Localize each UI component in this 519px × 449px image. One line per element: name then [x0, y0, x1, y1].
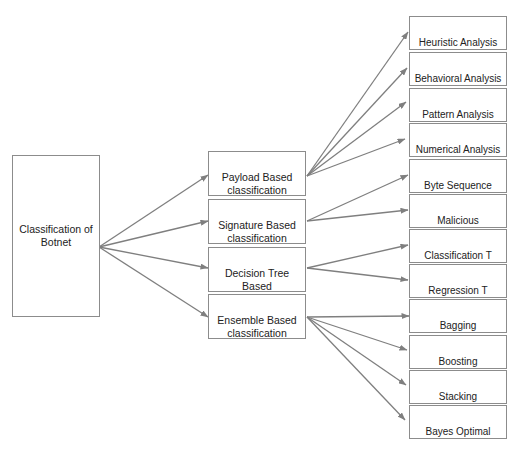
- arrow-root-to-category-2: [99, 247, 208, 268]
- arrow-category-3-to-method-10: [307, 317, 406, 385]
- method-label: Bagging: [440, 320, 477, 331]
- method-node-heuristic-analysis: Heuristic Analysis: [409, 16, 507, 50]
- method-node-pattern-analysis: Pattern Analysis: [409, 88, 507, 122]
- arrow-category-0-to-method-3: [307, 139, 405, 176]
- category-label: Ensemble Based classification: [217, 314, 296, 339]
- root-node-label: Classification of Botnet: [19, 223, 93, 249]
- method-node-bagging: Bagging: [409, 299, 507, 333]
- method-node-behavioral-analysis: Behavioral Analysis: [409, 52, 507, 86]
- method-label: Stacking: [439, 391, 477, 402]
- category-node-ensemble: Ensemble Based classification: [208, 294, 306, 339]
- arrow-root-to-category-3: [99, 247, 208, 317]
- method-node-bayes-optimal: Bayes Optimal: [409, 405, 507, 439]
- arrow-category-2-to-method-6: [307, 245, 408, 268]
- method-node-numerical-analysis: Numerical Analysis: [409, 123, 507, 157]
- method-node-regression-t-analysis: Regression T Analysis: [409, 264, 507, 298]
- category-label: Signature Based classification: [218, 219, 296, 244]
- method-label: Behavioral Analysis: [415, 73, 502, 84]
- method-node-classification-t-analysis: Classification T Analysis: [409, 229, 507, 263]
- category-label: Payload Based classification: [222, 171, 293, 196]
- method-label: Pattern Analysis: [422, 109, 494, 120]
- arrow-root-to-category-0: [99, 175, 208, 247]
- category-node-payload: Payload Based classification: [208, 151, 306, 196]
- arrow-category-3-to-method-11: [307, 317, 405, 420]
- arrow-category-1-to-method-4: [307, 175, 408, 221]
- method-node-stacking: Stacking: [409, 370, 507, 404]
- arrow-category-0-to-method-1: [307, 68, 407, 176]
- method-node-malicious-instruction: Malicious Instruction: [409, 194, 507, 228]
- category-node-signature: Signature Based classification: [208, 199, 306, 244]
- root-node-classification-of-botnet: Classification of Botnet: [12, 155, 100, 317]
- arrow-category-1-to-method-5: [307, 210, 408, 221]
- arrow-category-0-to-method-0: [307, 32, 408, 176]
- method-label: Numerical Analysis: [416, 144, 500, 155]
- method-label: Byte Sequence: [424, 180, 492, 191]
- category-node-decision-tree: Decision Tree Based classification: [208, 247, 306, 292]
- arrow-category-3-to-method-8: [307, 316, 409, 317]
- method-node-byte-sequence: Byte Sequence: [409, 159, 507, 193]
- arrow-category-2-to-method-7: [307, 268, 408, 280]
- method-label: Heuristic Analysis: [419, 37, 497, 48]
- method-node-boosting: Boosting: [409, 335, 507, 369]
- arrow-category-0-to-method-2: [307, 102, 406, 176]
- method-label: Bayes Optimal: [425, 426, 490, 437]
- arrow-root-to-category-1: [99, 221, 208, 247]
- arrow-category-3-to-method-9: [307, 317, 407, 350]
- method-label: Boosting: [439, 356, 478, 367]
